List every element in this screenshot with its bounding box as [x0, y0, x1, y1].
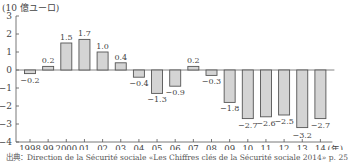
bar [279, 70, 290, 115]
x-tick-label: 08 [206, 144, 217, 150]
y-tick-label: 3 [6, 11, 12, 21]
x-tick-label: 06 [170, 144, 181, 150]
y-tick-label: −2 [0, 101, 12, 111]
bar-value-label: −0.2 [20, 76, 39, 85]
x-tick-label: 12 [279, 144, 290, 150]
bar-value-label: −2.5 [274, 117, 293, 126]
bar [79, 39, 90, 70]
bar [188, 66, 199, 70]
bars [25, 39, 326, 127]
x-tick-label: 2000 [55, 144, 77, 150]
y-tick-label: −4 [0, 137, 12, 147]
y-tick-label: −1 [0, 83, 12, 93]
x-tick-label: 01 [79, 144, 90, 150]
bar [206, 70, 217, 75]
bar-value-label: −0.3 [202, 77, 221, 86]
y-tick-label: 0 [6, 65, 12, 75]
bar [97, 52, 108, 70]
y-tick-label: −3 [0, 119, 12, 129]
bar [297, 70, 308, 128]
x-axis-unit-label: (年) [327, 144, 343, 150]
x-tick-label: 13 [297, 144, 308, 150]
bar [242, 70, 253, 119]
bar [315, 70, 326, 119]
bar-value-label: 1.7 [78, 29, 91, 38]
x-tick-label: 1998 [19, 144, 41, 150]
bar-value-label: −2.7 [238, 121, 257, 130]
bar [152, 70, 163, 93]
bar-value-label: −2.7 [311, 121, 330, 130]
x-tick-label: 10 [242, 144, 253, 150]
bar-value-label: 1.0 [96, 42, 109, 51]
bar [170, 70, 181, 86]
x-tick-label: 14 [315, 144, 326, 150]
source-note: 出典：Direction de la Sécurité sociale «Les… [6, 151, 348, 162]
bar [61, 43, 72, 70]
x-tick-label: 02 [97, 144, 108, 150]
bar [224, 70, 235, 102]
x-tick-label: 99 [43, 144, 54, 150]
bar-value-label: −3.2 [293, 131, 312, 140]
x-tick-label: 04 [133, 144, 144, 150]
bar-value-label: 0.4 [114, 53, 127, 62]
bar [43, 66, 54, 70]
bar-value-label: −0.9 [165, 88, 184, 97]
bar [25, 70, 36, 74]
bar-value-label: −1.8 [220, 104, 239, 113]
bar-chart: 3210−1−2−3−41998992000010203040506070809… [0, 0, 358, 150]
x-tick-label: 11 [261, 144, 272, 150]
bar [115, 63, 126, 70]
bar-value-label: −0.4 [129, 79, 148, 88]
x-tick-label: 07 [188, 144, 199, 150]
x-tick-label: 09 [224, 144, 235, 150]
bar [133, 70, 144, 77]
bar-value-label: 0.2 [42, 56, 55, 65]
bar-value-label: 1.5 [60, 33, 73, 42]
bar [260, 70, 271, 117]
x-tick-label: 03 [115, 144, 126, 150]
bar-value-label: −1.3 [147, 95, 166, 104]
x-tick-label: 05 [152, 144, 163, 150]
bar-value-label: −2.6 [256, 119, 275, 128]
y-tick-label: 1 [6, 47, 12, 57]
y-tick-label: 2 [6, 29, 12, 39]
bar-value-label: 0.2 [187, 56, 200, 65]
